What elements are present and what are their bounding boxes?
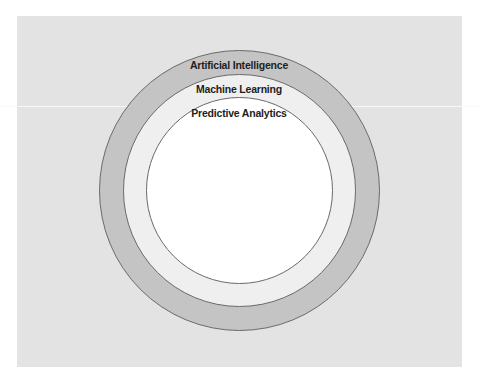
label-predictive-analytics: Predictive Analytics <box>0 107 478 119</box>
circle-predictive-analytics <box>146 97 333 284</box>
label-machine-learning: Machine Learning <box>0 83 478 95</box>
label-artificial-intelligence: Artificial Intelligence <box>0 59 478 71</box>
